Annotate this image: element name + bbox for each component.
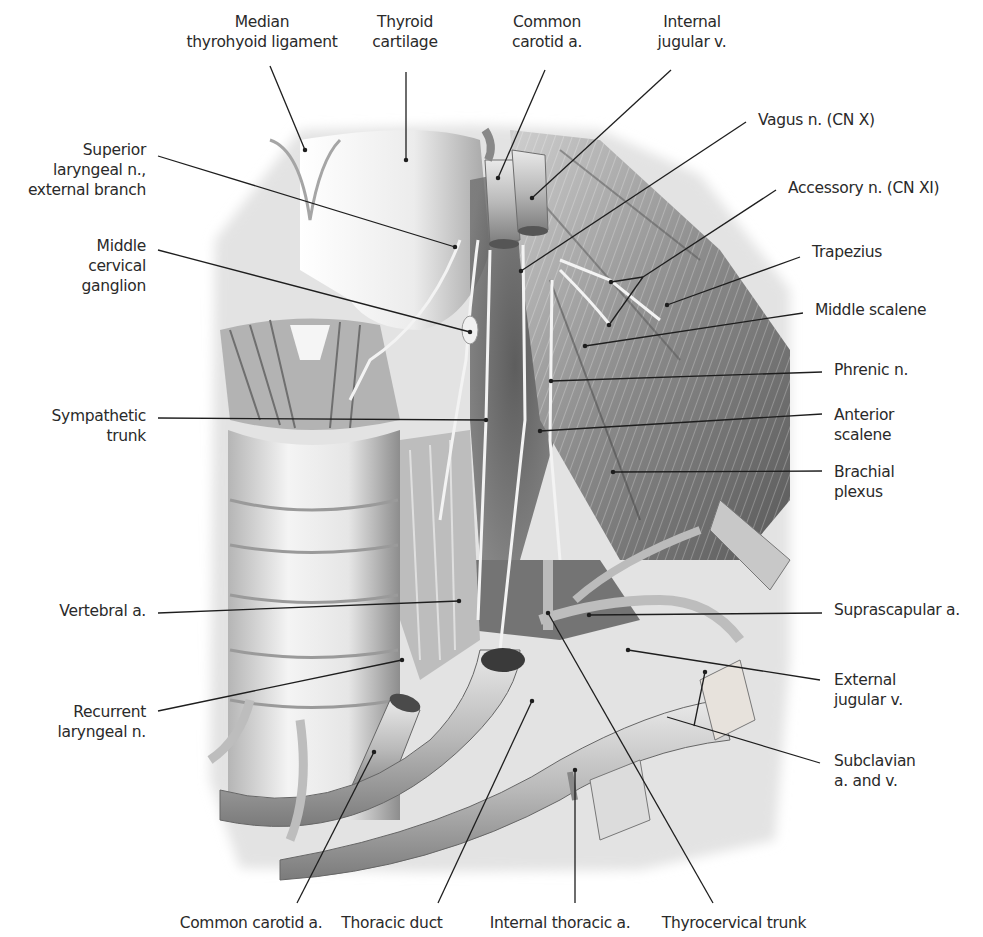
leader-dot xyxy=(484,418,487,421)
label-middle-scalene: Middle scalene xyxy=(815,300,926,320)
leader-dot xyxy=(530,196,533,199)
leader-dot xyxy=(665,303,668,306)
leader-dot xyxy=(573,768,576,771)
label-vagus-n: Vagus n. (CN X) xyxy=(758,110,875,130)
leader-dot xyxy=(607,323,610,326)
leader-dot xyxy=(587,613,590,616)
leader-dot xyxy=(519,269,522,272)
label-superior-laryngeal-n: Superiorlaryngeal n.,external branch xyxy=(28,140,146,200)
leader-dot xyxy=(609,280,612,283)
leader-dot xyxy=(453,245,456,248)
leader-dot xyxy=(549,379,552,382)
label-internal-thoracic-a: Internal thoracic a. xyxy=(490,913,631,933)
leader-dot xyxy=(468,330,471,333)
leader-dot xyxy=(404,158,407,161)
label-common-carotid-a-top: Commoncarotid a. xyxy=(512,12,582,52)
label-sympathetic-trunk: Sympathetictrunk xyxy=(52,406,147,446)
leader-dot xyxy=(703,670,706,673)
label-trapezius: Trapezius xyxy=(812,242,882,262)
cricothyroid-muscle xyxy=(220,319,400,430)
leader-median-thyrohyoid-ligament xyxy=(270,66,305,150)
label-suprascapular-a: Suprascapular a. xyxy=(834,600,960,620)
leader-dot xyxy=(546,611,549,614)
label-recurrent-laryngeal-n: Recurrentlaryngeal n. xyxy=(58,702,146,742)
label-external-jugular-v: Externaljugular v. xyxy=(834,670,903,710)
leader-dot xyxy=(530,699,533,702)
leader-dot xyxy=(538,429,541,432)
label-vertebral-a: Vertebral a. xyxy=(59,601,146,621)
label-internal-jugular-v: Internaljugular v. xyxy=(658,12,727,52)
label-common-carotid-a-bottom: Common carotid a. xyxy=(180,913,323,933)
prevertebral-muscles xyxy=(400,430,480,680)
label-thyroid-cartilage: Thyroidcartilage xyxy=(372,12,437,52)
leader-dot xyxy=(583,344,586,347)
label-brachial-plexus: Brachialplexus xyxy=(834,462,895,502)
label-thoracic-duct: Thoracic duct xyxy=(341,913,442,933)
label-subclavian-a-and-v: Subclaviana. and v. xyxy=(834,751,916,791)
leader-dot xyxy=(626,648,629,651)
label-median-thyrohyoid-ligament: Medianthyrohyoid ligament xyxy=(187,12,338,52)
leader-dot xyxy=(496,176,499,179)
label-anterior-scalene: Anteriorscalene xyxy=(834,405,894,445)
label-middle-cervical-ganglion: Middlecervicalganglion xyxy=(81,236,146,296)
leader-dot xyxy=(400,658,403,661)
leader-dot xyxy=(303,148,306,151)
label-thyrocervical-trunk: Thyrocervical trunk xyxy=(662,913,807,933)
leader-dot xyxy=(457,599,460,602)
label-phrenic-n: Phrenic n. xyxy=(834,360,908,380)
label-accessory-n: Accessory n. (CN XI) xyxy=(788,178,939,198)
leader-dot xyxy=(372,750,375,753)
leader-dot xyxy=(611,470,614,473)
